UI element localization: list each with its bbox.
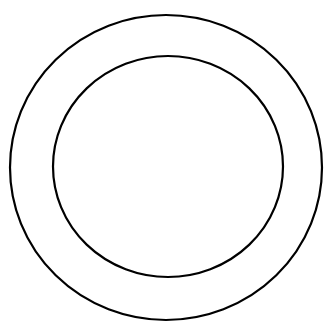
background: [0, 0, 330, 328]
concentric-circles-diagram: [0, 0, 330, 328]
